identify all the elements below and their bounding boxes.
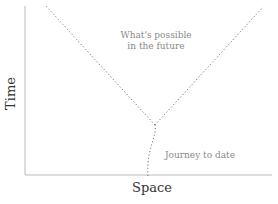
future-cone-left [46,6,155,125]
future-annotation-line1: What's possible [112,30,200,41]
y-axis-label: Time [3,77,18,110]
journey-annotation: Journey to date [160,150,240,161]
journey-path [148,125,156,176]
future-annotation-line2: in the future [112,41,200,52]
future-cone-right [155,7,263,125]
space-time-diagram: What's possible in the future Journey to… [0,0,278,204]
future-annotation: What's possible in the future [112,30,200,52]
x-axis-label: Space [132,180,172,195]
